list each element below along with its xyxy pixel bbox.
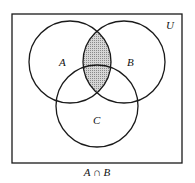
set-b-label: B (127, 56, 134, 68)
caption: A ∩ B (83, 166, 111, 178)
set-a-label: A (58, 56, 66, 68)
set-c-label: C (93, 114, 101, 126)
universe-label: U (166, 19, 175, 31)
venn-diagram: U A B C A ∩ B (0, 0, 195, 183)
